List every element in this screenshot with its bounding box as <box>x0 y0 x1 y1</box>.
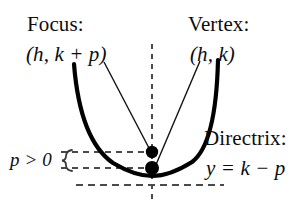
vertex-point <box>145 161 159 175</box>
focus-point <box>146 146 158 158</box>
parabola-curve <box>74 60 218 176</box>
vertex-coordinates-label: (h, k) <box>190 44 235 65</box>
focus-title-label: Focus: <box>27 14 84 35</box>
focus-leader-line <box>104 62 150 150</box>
p-condition-label: p > 0 <box>10 150 52 169</box>
directrix-equation-label: y = k − p <box>206 158 285 179</box>
vertex-title-label: Vertex: <box>188 14 249 35</box>
vertex-leader-line <box>155 61 200 167</box>
focus-coordinates-label: (h, k + p) <box>26 44 106 65</box>
directrix-title-label: Directrix: <box>204 128 287 149</box>
parabola-diagram: Focus: (h, k + p) Vertex: (h, k) Directr… <box>0 0 307 205</box>
